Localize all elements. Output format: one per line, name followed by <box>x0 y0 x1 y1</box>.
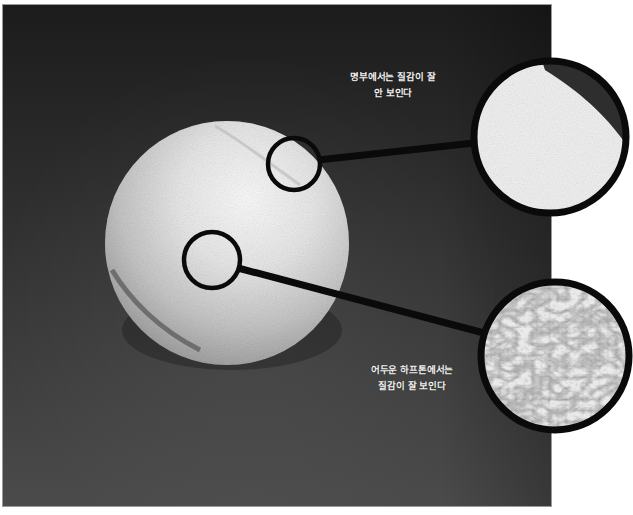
caption-halftone: 어두운 하프톤에서는 질감이 잘 보인다 <box>352 362 472 394</box>
callout-connector-highlight <box>318 143 474 160</box>
tennis-ball <box>105 121 349 365</box>
magnified-circle-halftone <box>480 280 630 432</box>
caption-highlight-line-2: 안 보인다 <box>333 85 453 101</box>
photo-illustration <box>0 0 633 515</box>
tennis-ball-texture-figure: 명부에서는 질감이 잘 안 보인다 어두운 하프톤에서는 질감이 잘 보인다 <box>0 0 633 515</box>
caption-halftone-line-1: 어두운 하프톤에서는 <box>352 362 472 378</box>
caption-highlight: 명부에서는 질감이 잘 안 보인다 <box>333 69 453 101</box>
caption-halftone-line-2: 질감이 잘 보인다 <box>352 378 472 394</box>
magnified-circle-highlight <box>470 55 630 220</box>
caption-highlight-line-1: 명부에서는 질감이 잘 <box>333 69 453 85</box>
